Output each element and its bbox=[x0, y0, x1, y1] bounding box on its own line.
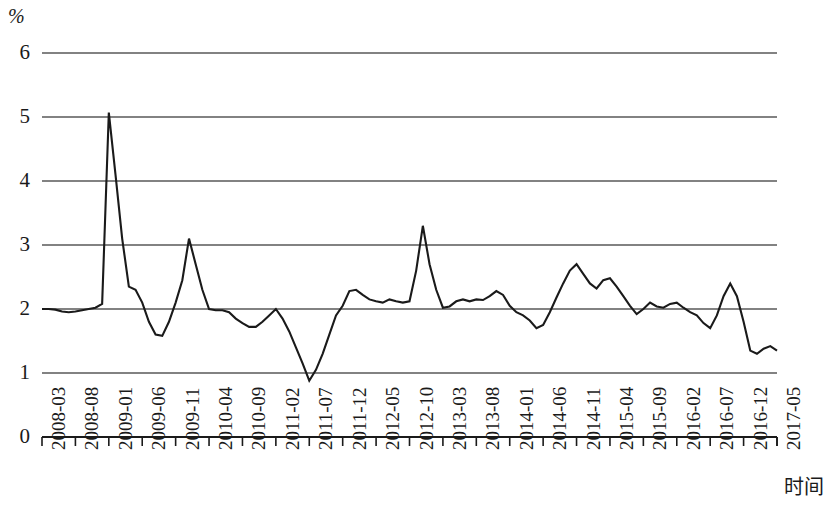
x-axis-tick-label: 2014-01 bbox=[517, 387, 536, 450]
y-axis-tick-label: 1 bbox=[4, 362, 30, 383]
y-axis-tick-label: 5 bbox=[4, 106, 30, 127]
y-axis-tick-label: 4 bbox=[4, 170, 30, 191]
x-axis-tick-label: 2014-11 bbox=[584, 387, 603, 450]
x-axis-tick-label: 2012-05 bbox=[383, 387, 402, 450]
y-axis-tick-label: 3 bbox=[4, 234, 30, 255]
y-axis-tick-label: 0 bbox=[4, 426, 30, 447]
x-axis-tick-label: 2016-07 bbox=[717, 387, 736, 450]
x-axis-tick-label: 2008-08 bbox=[82, 387, 101, 450]
x-axis-tick-label: 2012-10 bbox=[417, 387, 436, 450]
y-axis-tick-label: 6 bbox=[4, 42, 30, 63]
x-axis-tick-label: 2016-02 bbox=[684, 387, 703, 450]
x-axis-tick-label: 2011-02 bbox=[283, 387, 302, 450]
x-axis-tick-label: 2011-12 bbox=[350, 387, 369, 450]
x-axis-tick-label: 2008-03 bbox=[49, 387, 68, 450]
chart-container: % 0123456 2008-032008-082009-012009-0620… bbox=[0, 0, 833, 525]
data-series-line bbox=[42, 113, 777, 381]
x-axis-tick-label: 2011-07 bbox=[316, 387, 335, 450]
x-axis-tick-label: 2013-03 bbox=[450, 387, 469, 450]
x-axis-tick-label: 2014-06 bbox=[550, 387, 569, 450]
x-axis-tick-label: 2009-11 bbox=[183, 387, 202, 450]
x-axis-tick-label: 2013-08 bbox=[483, 387, 502, 450]
x-axis-tick-label: 2016-12 bbox=[751, 387, 770, 450]
x-axis-tick-label: 2009-06 bbox=[149, 387, 168, 450]
x-axis-title: 时间 bbox=[784, 477, 824, 497]
x-axis-tick-label: 2009-01 bbox=[116, 387, 135, 450]
x-axis-tick-label: 2010-09 bbox=[249, 387, 268, 450]
y-axis-tick-label: 2 bbox=[4, 298, 30, 319]
x-axis-tick-label: 2017-05 bbox=[784, 387, 803, 450]
x-axis-tick-label: 2015-09 bbox=[650, 387, 669, 450]
x-axis-tick-label: 2015-04 bbox=[617, 387, 636, 450]
gridlines-group bbox=[42, 53, 777, 373]
x-axis-tick-label: 2010-04 bbox=[216, 387, 235, 450]
